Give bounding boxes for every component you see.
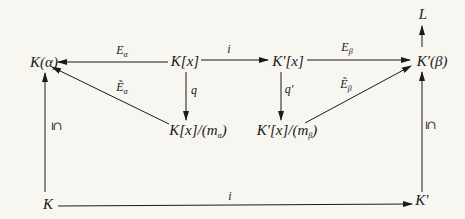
node-K-prime-x: K′[x] <box>272 53 304 70</box>
node-L: L <box>419 6 427 23</box>
label-e-alpha: Eα <box>116 43 128 59</box>
node-K-alpha: K(α) <box>30 54 58 71</box>
label-q: q <box>191 83 197 98</box>
node-K-prime-beta: K′(β) <box>417 53 448 70</box>
label-e-tilde-alpha: Ẽα <box>116 80 128 96</box>
arrow-i-bottom <box>58 204 412 206</box>
node-K: K <box>43 196 53 213</box>
label-subset-left: ⊆ <box>49 121 64 131</box>
arrow-e-tilde-alpha <box>52 67 169 124</box>
label-subset-right: ⊆ <box>423 120 438 130</box>
label-e-tilde-beta: Ẽβ <box>340 77 351 93</box>
label-i-top: i <box>227 42 230 57</box>
node-K-x: K[x] <box>171 53 199 70</box>
label-q-prime: q′ <box>285 82 294 97</box>
node-K-prime: K′ <box>415 192 428 209</box>
label-i-bottom: i <box>228 189 231 204</box>
node-K-x-mod-m-alpha: K[x]/(mα) <box>169 122 227 140</box>
node-K-prime-x-mod-m-beta: K′[x]/(mβ) <box>257 122 318 140</box>
label-e-beta: Eβ <box>341 40 352 56</box>
arrow-e-tilde-beta <box>305 66 411 123</box>
diagram-arrows <box>0 0 465 219</box>
